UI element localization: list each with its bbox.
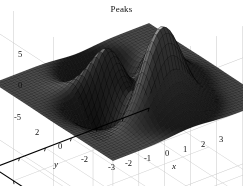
surface-plot-canvas — [0, 0, 243, 186]
figure-panel: Peaks 5 0 -5 2 0 -2 y -3 -2 -1 0 1 2 3 x — [0, 0, 243, 186]
